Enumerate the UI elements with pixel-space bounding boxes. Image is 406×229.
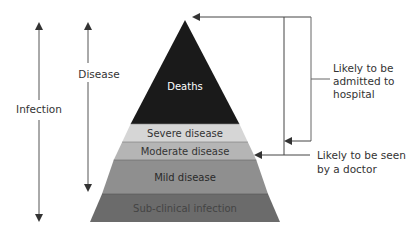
hospital-text-line2: admitted to — [333, 75, 394, 87]
layer-deaths — [131, 20, 240, 124]
layer-label-moderate: Moderate disease — [141, 146, 230, 157]
infection-range-arrow: Infection — [16, 24, 62, 220]
layer-label-mild: Mild disease — [154, 172, 216, 183]
doctor-annotation: Likely to be seen by a doctor — [256, 17, 406, 175]
doctor-text-line2: by a doctor — [317, 163, 377, 175]
infection-label: Infection — [16, 103, 62, 115]
disease-label: Disease — [78, 68, 119, 80]
doctor-text-line1: Likely to be seen — [317, 149, 406, 161]
hospital-text-line1: Likely to be — [333, 62, 393, 74]
hospital-text-line3: hospital — [333, 88, 375, 100]
layer-label-sub-clinical: Sub-clinical infection — [133, 203, 237, 214]
layer-label-deaths: Deaths — [167, 81, 202, 92]
layer-label-severe: Severe disease — [147, 128, 223, 139]
severity-pyramid-diagram: Deaths Severe disease Moderate disease M… — [0, 0, 406, 229]
